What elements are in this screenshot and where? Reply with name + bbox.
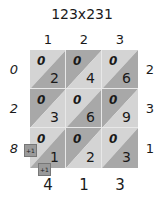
lattice-cell: 0 2	[30, 50, 66, 89]
cell-ones: 4	[86, 70, 95, 86]
diagonal-shading-icon	[102, 89, 138, 128]
grid-divider	[30, 88, 138, 89]
cell-tens: 0	[37, 93, 45, 107]
result-digit-bottom: 1	[66, 176, 102, 194]
result-digit-left: 8	[6, 141, 22, 156]
cell-tens: 0	[37, 132, 45, 146]
cell-tens: 0	[73, 93, 81, 107]
lattice-cell: 0 3	[102, 128, 138, 168]
cell-tens: 0	[109, 132, 117, 146]
title: 123x231	[0, 6, 164, 22]
lattice-cell: 0 2	[66, 128, 102, 168]
cell-tens: 0	[109, 54, 117, 68]
grid-divider	[101, 50, 102, 168]
cell-tens: 0	[37, 54, 45, 68]
diagonal-shading-icon	[66, 50, 102, 89]
diagonal-shading-icon	[30, 89, 66, 128]
diagonal-shading-icon	[66, 89, 102, 128]
cell-ones: 2	[86, 149, 95, 165]
result-digit-left: 2	[6, 101, 22, 116]
result-digit-left: 0	[6, 62, 22, 77]
lattice-cell: 0 4	[66, 50, 102, 89]
cell-tens: 0	[73, 132, 81, 146]
result-digit-bottom: 4	[30, 176, 66, 194]
cell-ones: 3	[122, 149, 131, 165]
diagonal-shading-icon	[102, 128, 138, 168]
cell-ones: 3	[50, 109, 59, 125]
grid-divider	[30, 127, 138, 128]
cell-ones: 2	[50, 70, 59, 86]
result-digit-bottom: 3	[102, 176, 138, 194]
lattice-cell: 0 6	[66, 89, 102, 128]
multiplier-digit: 2	[142, 62, 158, 77]
carry-badge-bottom: +1	[38, 163, 51, 176]
cell-tens: 0	[109, 93, 117, 107]
multiplicand-digit: 3	[102, 32, 138, 47]
cell-ones: 6	[122, 70, 131, 86]
carry-badge-left: +1	[24, 144, 37, 157]
cell-ones: 6	[86, 109, 95, 125]
lattice-cell: 0 3	[30, 89, 66, 128]
lattice-cell: 0 6	[102, 50, 138, 89]
multiplicand-digit: 1	[30, 32, 66, 47]
diagonal-shading-icon	[30, 50, 66, 89]
lattice-grid: 0 2 0 4 0 6 0 3 0 6 0 9 0 1 0 2 0 3	[30, 50, 138, 168]
cell-tens: 0	[73, 54, 81, 68]
diagonal-shading-icon	[102, 50, 138, 89]
cell-ones: 9	[122, 109, 131, 125]
grid-divider	[65, 50, 66, 168]
multiplier-digit: 3	[142, 101, 158, 116]
lattice-cell: 0 9	[102, 89, 138, 128]
diagonal-shading-icon	[66, 128, 102, 168]
multiplicand-digit: 2	[66, 32, 102, 47]
multiplier-digit: 1	[142, 141, 158, 156]
cell-ones: 1	[50, 149, 59, 165]
